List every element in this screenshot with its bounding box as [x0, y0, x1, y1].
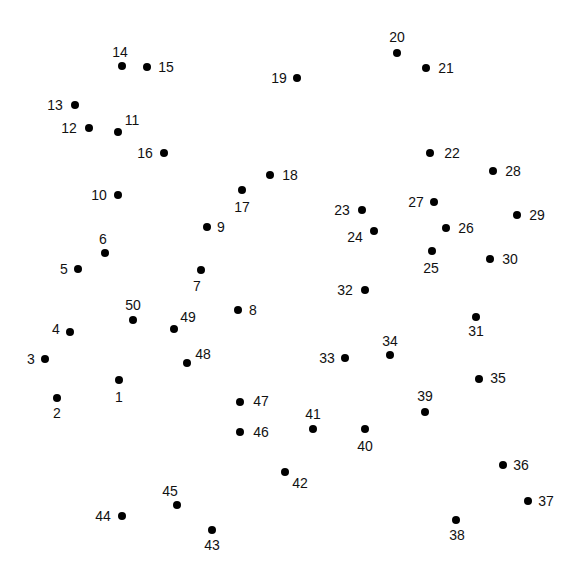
dot-label-24: 24 — [347, 230, 363, 244]
dot-label-22: 22 — [444, 146, 460, 160]
dot-17 — [238, 186, 246, 194]
dot-label-44: 44 — [95, 509, 111, 523]
dot-label-12: 12 — [61, 121, 77, 135]
dot-49 — [170, 325, 178, 333]
dot-6 — [101, 249, 109, 257]
dot-label-26: 26 — [458, 221, 474, 235]
dot-9 — [203, 223, 211, 231]
dot-33 — [341, 354, 349, 362]
dot-23 — [358, 206, 366, 214]
dot-label-20: 20 — [389, 30, 405, 44]
dot-24 — [370, 227, 378, 235]
dot-40 — [361, 425, 369, 433]
dot-label-19: 19 — [271, 71, 287, 85]
dot-43 — [208, 526, 216, 534]
dot-50 — [129, 316, 137, 324]
dot-label-16: 16 — [137, 146, 153, 160]
dot-label-8: 8 — [249, 303, 257, 317]
dot-45 — [173, 501, 181, 509]
dot-label-2: 2 — [53, 406, 61, 420]
dot-label-39: 39 — [417, 389, 433, 403]
dot-label-5: 5 — [60, 262, 68, 276]
dot-19 — [293, 74, 301, 82]
dot-36 — [499, 461, 507, 469]
dot-label-15: 15 — [158, 60, 174, 74]
dot-13 — [71, 101, 79, 109]
dot-label-49: 49 — [180, 310, 196, 324]
dot-47 — [236, 398, 244, 406]
dot-44 — [118, 512, 126, 520]
dot-8 — [234, 306, 242, 314]
dot-label-45: 45 — [162, 484, 178, 498]
dot-38 — [452, 516, 460, 524]
dot-label-35: 35 — [490, 371, 506, 385]
dot-label-28: 28 — [505, 164, 521, 178]
dot-label-7: 7 — [193, 279, 201, 293]
dot-21 — [422, 64, 430, 72]
dot-label-3: 3 — [27, 352, 35, 366]
dot-label-50: 50 — [125, 298, 141, 312]
dot-label-40: 40 — [357, 439, 373, 453]
dot-1 — [115, 376, 123, 384]
dot-label-1: 1 — [115, 390, 123, 404]
dot-label-33: 33 — [319, 351, 335, 365]
dot-31 — [472, 313, 480, 321]
dot-29 — [513, 211, 521, 219]
dot-label-42: 42 — [292, 476, 308, 490]
dot-label-36: 36 — [513, 458, 529, 472]
dot-4 — [66, 328, 74, 336]
dot-label-48: 48 — [195, 347, 211, 361]
dot-label-34: 34 — [382, 334, 398, 348]
dot-34 — [386, 351, 394, 359]
dot-label-18: 18 — [282, 168, 298, 182]
dot-10 — [114, 191, 122, 199]
dot-15 — [143, 63, 151, 71]
dot-26 — [442, 224, 450, 232]
dot-41 — [309, 425, 317, 433]
dot-label-9: 9 — [217, 220, 225, 234]
connect-the-dots-canvas: 1234567891011121314151617181920212223242… — [0, 0, 586, 574]
dot-label-43: 43 — [204, 538, 220, 552]
dot-39 — [421, 408, 429, 416]
dot-label-13: 13 — [47, 98, 63, 112]
dot-5 — [74, 265, 82, 273]
dot-11 — [114, 128, 122, 136]
dot-46 — [236, 428, 244, 436]
dot-30 — [486, 255, 494, 263]
dot-14 — [118, 62, 126, 70]
dot-label-41: 41 — [305, 407, 321, 421]
dot-label-27: 27 — [408, 195, 424, 209]
dot-3 — [41, 355, 49, 363]
dot-label-38: 38 — [449, 528, 465, 542]
dot-label-11: 11 — [125, 113, 140, 127]
dot-label-25: 25 — [423, 261, 439, 275]
dot-label-46: 46 — [253, 425, 269, 439]
dot-37 — [524, 497, 532, 505]
dot-28 — [489, 167, 497, 175]
dot-42 — [281, 468, 289, 476]
dot-label-21: 21 — [438, 61, 454, 75]
dot-2 — [53, 394, 61, 402]
dot-label-37: 37 — [538, 494, 554, 508]
dot-27 — [430, 198, 438, 206]
dot-label-14: 14 — [112, 45, 128, 59]
dot-label-47: 47 — [253, 394, 269, 408]
dot-label-6: 6 — [99, 232, 107, 246]
dot-label-32: 32 — [337, 283, 353, 297]
dot-35 — [475, 375, 483, 383]
dot-18 — [266, 171, 274, 179]
dot-12 — [85, 124, 93, 132]
dot-7 — [197, 266, 205, 274]
dot-32 — [361, 286, 369, 294]
dot-20 — [393, 49, 401, 57]
dot-16 — [160, 149, 168, 157]
dot-label-29: 29 — [529, 208, 545, 222]
dot-label-17: 17 — [234, 200, 250, 214]
dot-label-4: 4 — [52, 322, 60, 336]
dot-label-31: 31 — [468, 324, 484, 338]
dot-label-10: 10 — [91, 188, 107, 202]
dot-22 — [426, 149, 434, 157]
dot-label-23: 23 — [334, 203, 350, 217]
dot-48 — [183, 359, 191, 367]
dot-label-30: 30 — [502, 252, 518, 266]
